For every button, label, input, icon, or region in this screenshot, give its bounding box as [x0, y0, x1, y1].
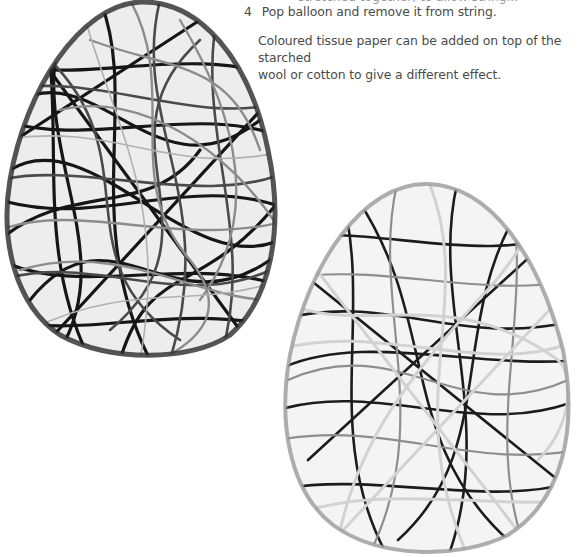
tip-line-2: wool or cotton to give a different effec… [258, 66, 578, 83]
step-text: Pop balloon and remove it from string. [262, 4, 497, 19]
tip-line-1: Coloured tissue paper can be added on to… [258, 32, 578, 66]
light-string-egg-image [278, 180, 578, 557]
dark-string-egg-image [0, 0, 285, 360]
tip-paragraph: Coloured tissue paper can be added on to… [258, 32, 578, 83]
